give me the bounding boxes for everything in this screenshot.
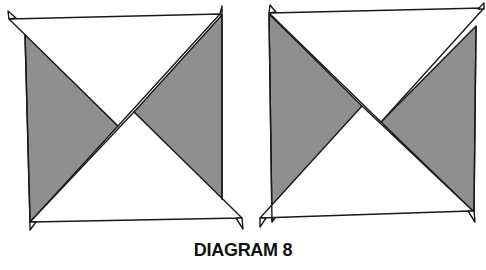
left-tab-bl bbox=[30, 222, 36, 230]
left-tab-br bbox=[236, 218, 243, 229]
right-square bbox=[260, 3, 484, 227]
right-tab-tr bbox=[478, 3, 484, 9]
right-tab-br bbox=[468, 211, 475, 222]
left-square bbox=[8, 6, 243, 230]
left-tab-tl bbox=[8, 11, 16, 19]
right-tab-bl bbox=[260, 218, 266, 227]
right-tab-tl bbox=[269, 5, 276, 13]
diagram-caption: DIAGRAM 8 bbox=[0, 240, 486, 261]
diagram-figure bbox=[0, 0, 486, 270]
left-tab-tr bbox=[220, 6, 222, 15]
